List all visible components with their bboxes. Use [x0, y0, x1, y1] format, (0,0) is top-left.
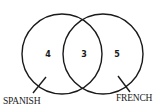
spanish-set-label: SPANISH — [3, 96, 40, 106]
french-circle — [63, 14, 143, 94]
french-set-label: FRENCH — [116, 93, 152, 103]
spanish-only-count: 4 — [45, 50, 51, 59]
french-only-count: 5 — [114, 50, 120, 59]
spanish-pointer-line — [33, 77, 46, 93]
spanish-circle — [22, 14, 102, 94]
intersection-count: 3 — [81, 50, 87, 59]
